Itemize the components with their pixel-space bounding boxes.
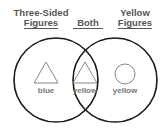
circle-yellow-icon [115,64,135,84]
region-label-both: yellow [69,86,101,95]
set-title-yellow-line2: Figures [118,17,152,29]
region-label-left: blue [30,86,62,95]
intersection-title: Both [70,18,106,28]
set-title-three-sided-line2: Figures [24,17,58,29]
triangle-blue-icon [34,62,58,83]
triangle-yellow-icon [73,62,97,83]
region-label-right: yellow [109,86,141,95]
set-circle-yellow [73,38,157,122]
set-title-yellow: Yellow Figures [112,8,158,28]
set-title-three-sided: Three-Sided Figures [8,8,74,28]
